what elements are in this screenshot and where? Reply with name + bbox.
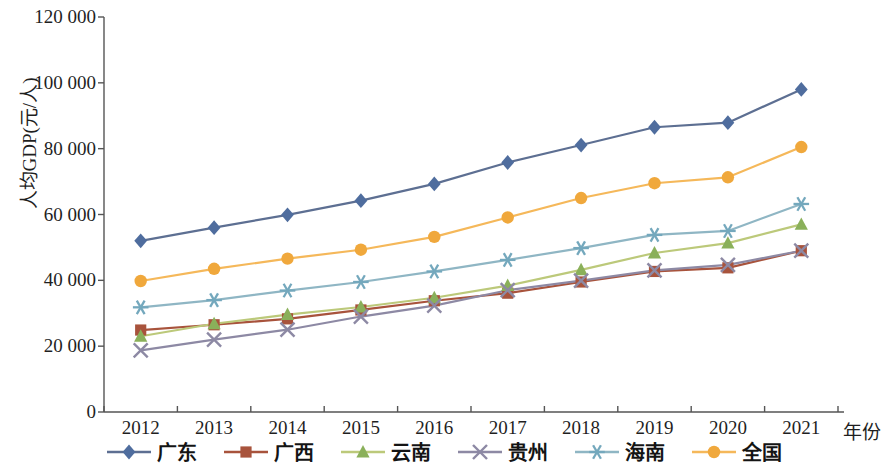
marker-circle [428,231,440,243]
legend-label: 全国 [742,437,782,466]
per-capita-gdp-line-chart: 人均GDP(元/人) 020 00040 00060 00080 000100 … [0,0,887,467]
marker-circle [355,244,367,256]
data-point-marker [355,193,368,208]
marker-circle [575,192,587,204]
marker-triangle [795,217,808,229]
data-point-marker [428,176,441,191]
data-point-marker [720,224,736,238]
marker-diamond [355,193,368,208]
legend-item-全国[interactable]: 全国 [691,437,782,466]
data-point-marker [647,228,663,242]
legend-label: 贵州 [508,437,548,466]
data-point-marker [501,155,514,170]
data-point-marker [575,138,588,153]
data-point-marker [648,177,660,189]
data-point-marker [502,211,514,223]
data-point-marker [134,233,147,248]
marker-diamond [208,220,221,235]
plot-area [0,0,887,467]
marker-circle [135,275,147,287]
data-point-marker [281,252,293,264]
marker-diamond [575,138,588,153]
legend-marker-icon [223,442,269,462]
data-point-marker [208,220,221,235]
x-tick-label: 2021 [782,417,820,439]
legend-label: 广东 [157,437,197,466]
data-point-marker [722,115,735,130]
data-point-marker [427,265,443,279]
x-tick-label: 2014 [269,417,307,439]
legend-label: 海南 [625,437,665,466]
marker-diamond [281,207,294,222]
data-point-marker [240,446,251,457]
data-point-marker [722,171,734,183]
data-point-marker [795,217,808,229]
x-tick-label: 2016 [415,417,453,439]
x-tick-label: 2017 [489,417,527,439]
marker-diamond [722,115,735,130]
series-line-广西 [141,251,802,330]
legend-item-广西[interactable]: 广西 [223,437,314,466]
marker-diamond [122,444,135,459]
x-tick-label: 2019 [636,417,674,439]
marker-circle [795,141,807,153]
data-point-marker [353,275,369,289]
data-point-marker [135,275,147,287]
x-tick-label: 2018 [562,417,600,439]
marker-circle [502,211,514,223]
data-point-marker [589,445,605,459]
legend-marker-icon [574,442,620,462]
legend-marker-icon [340,442,386,462]
marker-diamond [428,176,441,191]
data-point-marker [500,253,516,267]
data-point-marker [280,284,296,298]
data-point-marker [575,192,587,204]
marker-circle [208,263,220,275]
data-point-marker [122,444,135,459]
x-tick-label: 2012 [122,417,160,439]
data-point-marker [648,120,661,135]
marker-square [240,446,251,457]
x-tick-label: 2020 [709,417,747,439]
legend-item-云南[interactable]: 云南 [340,437,431,466]
data-point-marker [707,445,719,457]
series-line-全国 [141,147,802,281]
marker-diamond [134,233,147,248]
data-point-marker [428,231,440,243]
marker-diamond [648,120,661,135]
marker-diamond [795,82,808,97]
x-tick-label: 2013 [195,417,233,439]
data-point-marker [208,263,220,275]
data-point-marker [281,207,294,222]
legend-label: 广西 [274,437,314,466]
marker-circle [648,177,660,189]
data-point-marker [133,301,149,315]
data-point-marker [795,82,808,97]
data-point-marker [355,244,367,256]
series-line-云南 [141,224,802,336]
series-line-广东 [141,89,802,240]
marker-circle [281,252,293,264]
legend-item-海南[interactable]: 海南 [574,437,665,466]
legend-marker-icon [106,442,152,462]
legend-item-贵州[interactable]: 贵州 [457,437,548,466]
data-point-marker [795,141,807,153]
data-point-marker [573,241,589,255]
marker-circle [707,445,719,457]
data-point-marker [794,197,810,211]
legend-item-广东[interactable]: 广东 [106,437,197,466]
legend-marker-icon [691,442,737,462]
chart-legend: 广东广西云南贵州海南全国 [0,437,887,466]
marker-circle [722,171,734,183]
data-point-marker [206,293,222,307]
x-tick-label: 2015 [342,417,380,439]
legend-marker-icon [457,442,503,462]
legend-label: 云南 [391,437,431,466]
marker-diamond [501,155,514,170]
